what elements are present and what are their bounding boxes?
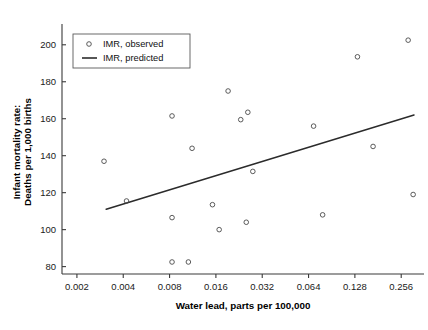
data-point-8 [217, 227, 222, 232]
data-point-14 [311, 124, 316, 129]
x-tick-label-2: 0.008 [158, 281, 182, 292]
scatter-plot: 801001201401601802000.0020.0040.0080.016… [0, 0, 428, 330]
y-tick-label-180: 180 [40, 76, 56, 87]
y-tick-label-160: 160 [40, 113, 56, 124]
data-point-6 [190, 146, 195, 151]
x-tick-label-0: 0.002 [65, 281, 89, 292]
data-point-2 [170, 114, 175, 119]
data-point-13 [251, 169, 256, 174]
y-tick-label-100: 100 [40, 224, 56, 235]
data-point-18 [406, 38, 411, 43]
data-point-5 [186, 260, 191, 265]
data-point-3 [170, 215, 175, 220]
data-point-19 [411, 192, 416, 197]
data-point-4 [170, 260, 175, 265]
data-point-10 [238, 117, 243, 122]
x-tick-label-6: 0.128 [343, 281, 367, 292]
data-point-12 [244, 220, 249, 225]
y-axis-title-line1: Infant mortality rate: [11, 105, 22, 200]
data-point-16 [355, 55, 360, 60]
predicted-line [106, 115, 414, 209]
y-tick-label-200: 200 [40, 39, 56, 50]
x-tick-label-3: 0.016 [204, 281, 228, 292]
chart-figure: 801001201401601802000.0020.0040.0080.016… [0, 0, 428, 330]
legend-label-predicted: IMR, predicted [103, 53, 163, 63]
x-tick-label-1: 0.004 [111, 281, 135, 292]
data-point-0 [102, 159, 107, 164]
y-tick-label-80: 80 [45, 261, 56, 272]
x-tick-label-7: 0.256 [389, 281, 413, 292]
y-axis-title-line2: Deaths per 1,000 births [22, 98, 33, 206]
legend-label-observed: IMR, observed [103, 39, 163, 49]
x-tick-label-4: 0.032 [250, 281, 274, 292]
data-point-11 [246, 110, 251, 115]
data-point-7 [210, 202, 215, 207]
y-tick-label-140: 140 [40, 150, 56, 161]
x-tick-label-5: 0.064 [297, 281, 321, 292]
data-point-17 [371, 144, 376, 149]
x-axis-title: Water lead, parts per 100,000 [176, 300, 311, 311]
data-point-15 [320, 213, 325, 218]
data-point-9 [226, 89, 231, 94]
y-tick-label-120: 120 [40, 187, 56, 198]
